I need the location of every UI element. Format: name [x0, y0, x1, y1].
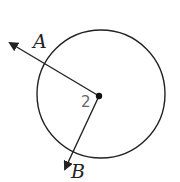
label-b: B: [70, 160, 85, 182]
angle-label: 2: [81, 93, 91, 111]
angle-diagram: A B 2: [0, 0, 180, 182]
vertex-point: [96, 93, 102, 99]
label-a: A: [31, 30, 47, 52]
